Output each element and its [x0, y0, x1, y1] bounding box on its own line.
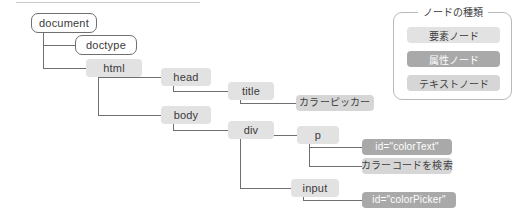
edge-head-to-title — [173, 86, 228, 91]
legend-item-text: テキストノード — [407, 75, 500, 91]
tree-node-head: head — [161, 68, 211, 86]
legend-item-attribute: 属性ノード — [407, 51, 500, 67]
edge-document-to-doctype — [43, 33, 75, 45]
tree-node-title: title — [228, 82, 274, 100]
tree-node-body: body — [161, 106, 211, 124]
edge-div-to-input — [240, 139, 291, 188]
legend-box: ノードの種類 要素ノード 属性ノード テキストノード — [393, 12, 512, 100]
edge-p-to-p-attr — [309, 144, 362, 147]
top-divider — [16, 2, 200, 3]
tree-node-p-attr: id="colorText" — [362, 139, 452, 155]
tree-node-div: div — [228, 121, 274, 139]
edge-body-to-div — [173, 124, 228, 130]
tree-node-p-text: カラーコードを検索 — [362, 158, 452, 174]
edge-title-to-titletext — [240, 100, 296, 103]
tree-node-titletext: カラーピッカー — [296, 95, 374, 111]
legend-item-element: 要素ノード — [407, 27, 500, 43]
tree-node-p: p — [297, 126, 339, 144]
legend-title: ノードの種類 — [418, 6, 488, 19]
tree-node-html: html — [86, 59, 142, 77]
edge-input-to-input-attr — [303, 197, 362, 200]
edge-p-to-p-text — [309, 144, 362, 166]
tree-node-input: input — [291, 179, 339, 197]
dom-tree-diagram: documentdoctypehtmlheadtitleカラーピッカーbodyd… — [0, 0, 519, 219]
edge-html-to-body — [98, 77, 161, 115]
tree-node-document: document — [31, 13, 97, 33]
tree-node-input-attr: id="colorPicker" — [362, 192, 456, 208]
tree-node-doctype: doctype — [75, 35, 137, 55]
